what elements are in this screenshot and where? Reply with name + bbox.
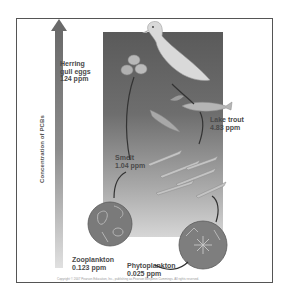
arrow-trout-to-gull <box>172 84 194 104</box>
gull-eggs-icon <box>121 55 147 75</box>
arrow-phyto-to-zoo <box>155 262 188 269</box>
arrow-zoo-to-smelt <box>114 172 126 198</box>
herring-gull-icon <box>142 21 210 80</box>
arrow-eggs-loop <box>127 77 134 160</box>
smelt-icon <box>148 150 226 198</box>
phytoplankton-icon <box>179 221 227 269</box>
arrow-smelt-region <box>212 196 218 222</box>
arrow-smelt-to-trout <box>199 112 203 144</box>
zooplankton-icon <box>88 202 132 246</box>
food-web-illustration <box>0 0 294 299</box>
